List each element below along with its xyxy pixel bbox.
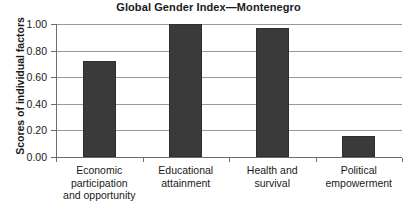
bar: [256, 28, 289, 157]
y-axis-tick-mark: [51, 51, 56, 52]
bar: [169, 24, 202, 157]
chart-title: Global Gender Index—Montenegro: [0, 1, 417, 13]
y-axis-tick-label: 0.20: [13, 125, 47, 136]
bar: [342, 136, 375, 157]
x-axis-tick-mark: [56, 158, 57, 162]
gridline: [56, 51, 402, 52]
y-axis-tick-label: 0.00: [13, 152, 47, 163]
gridline: [56, 24, 402, 25]
y-axis-tick-mark: [51, 130, 56, 131]
x-axis-category-label: Health andsurvival: [229, 164, 316, 189]
y-axis-tick-label: 0.80: [13, 46, 47, 57]
x-axis-category-label-line: participation: [56, 177, 143, 190]
y-axis-tick-labels: 0.000.200.400.600.801.00: [11, 0, 47, 212]
x-axis-tick-mark: [229, 158, 230, 162]
x-axis-category-label-line: attainment: [143, 177, 230, 190]
x-axis-tick-mark: [316, 158, 317, 162]
bar: [83, 61, 116, 157]
x-axis-category-label-line: Educational: [143, 164, 230, 177]
y-axis-tick-mark: [51, 24, 56, 25]
y-axis-tick-mark: [51, 77, 56, 78]
y-axis-line: [56, 24, 57, 158]
plot-area: [56, 24, 402, 157]
x-axis-category-label-line: survival: [229, 177, 316, 190]
y-axis-tick-label: 0.60: [13, 72, 47, 83]
x-axis-category-label: Educationalattainment: [143, 164, 230, 189]
x-axis-category-label: Politicalempowerment: [316, 164, 403, 189]
x-axis-category-label-line: Economic: [56, 164, 143, 177]
bar-chart: Global Gender Index—Montenegro Scores of…: [0, 0, 417, 212]
y-axis-tick-mark: [51, 104, 56, 105]
x-axis-category-label-line: and opportunity: [56, 189, 143, 202]
x-axis-tick-mark: [143, 158, 144, 162]
x-axis-category-label-line: Health and: [229, 164, 316, 177]
y-axis-tick-label: 1.00: [13, 19, 47, 30]
x-axis-category-label-line: Political: [316, 164, 403, 177]
x-axis-category-label-line: empowerment: [316, 177, 403, 190]
x-axis-tick-mark: [402, 158, 403, 162]
x-axis-category-label: Economicparticipationand opportunity: [56, 164, 143, 202]
y-axis-tick-label: 0.40: [13, 99, 47, 110]
